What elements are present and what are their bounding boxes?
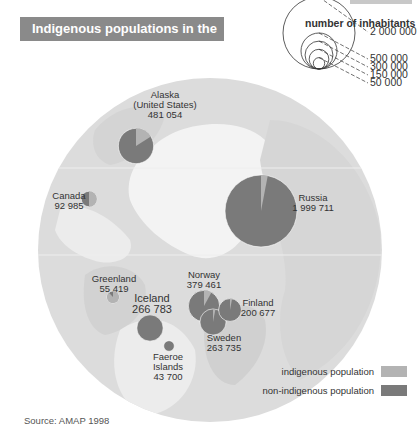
size-legend-leader xyxy=(319,41,368,67)
region-population-label: 92 985 xyxy=(54,200,83,211)
size-legend-label: 50 000 xyxy=(370,76,402,88)
region-population-label: 379 461 xyxy=(187,279,221,290)
size-legend-circle xyxy=(313,58,324,69)
size-legend-circle xyxy=(283,0,355,69)
pie-russia xyxy=(225,175,297,247)
size-legend-circle xyxy=(301,33,337,69)
region-population-label: 43 700 xyxy=(153,371,182,382)
size-legend-circle xyxy=(309,49,329,69)
region-population-label: 263 735 xyxy=(207,342,241,353)
region-population-label: 481 054 xyxy=(148,109,182,120)
legend-swatch-non-indigenous xyxy=(381,385,407,396)
size-legend-leader xyxy=(319,49,368,75)
region-population-label: 1 999 711 xyxy=(292,202,334,213)
arctic-map: 2 000 000500 000300 000150 00050 000 Ala… xyxy=(0,0,420,432)
size-legend-leader xyxy=(319,58,368,83)
region-population-label: 266 783 xyxy=(132,303,172,315)
legend-label-non-indigenous: non-indigenous population xyxy=(263,385,374,396)
size-legend: 2 000 000500 000300 000150 00050 000 xyxy=(283,0,417,88)
source-note: Source: AMAP 1998 xyxy=(24,415,109,426)
size-legend-label: 2 000 000 xyxy=(370,25,417,37)
pie-iceland xyxy=(137,315,163,341)
legend-label-indigenous: indigenous population xyxy=(282,366,374,377)
size-legend-leader xyxy=(319,33,368,59)
pie-faeroe-islands xyxy=(164,341,175,352)
pie-slice-non-indigenous xyxy=(164,341,175,352)
region-population-label: 200 677 xyxy=(241,307,275,318)
legend-swatch-indigenous xyxy=(381,366,407,377)
size-legend-circle xyxy=(305,41,333,69)
pie-slice-non-indigenous xyxy=(137,315,163,341)
size-legend-leader xyxy=(319,0,368,32)
pie-finland xyxy=(219,299,242,322)
pie-alaska-united-states xyxy=(118,128,153,163)
region-population-label: 55 419 xyxy=(99,283,128,294)
